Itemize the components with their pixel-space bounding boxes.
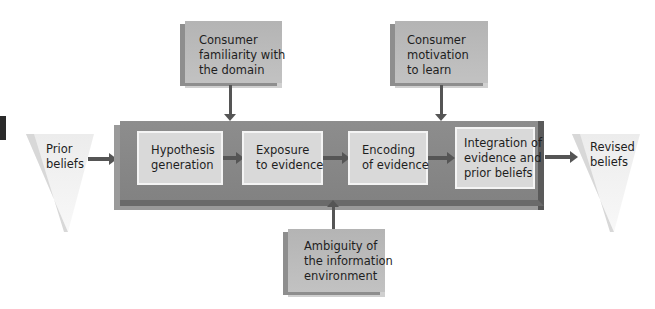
arrow-step-3-to-4 bbox=[428, 156, 448, 160]
arrow-process-to-revised bbox=[545, 155, 571, 159]
factor-line: Consumer bbox=[199, 33, 272, 48]
factor-line: motivation bbox=[407, 48, 478, 63]
revised-beliefs-label: Revised beliefs bbox=[590, 140, 635, 170]
prior-beliefs-triangle: Prior beliefs bbox=[24, 132, 96, 232]
arrow-familiarity-to-process bbox=[229, 85, 232, 115]
factor-ambiguity: Ambiguity of the information environment bbox=[288, 229, 385, 292]
step-line: evidence and bbox=[464, 151, 533, 166]
step-hypothesis-generation: Hypothesis generation bbox=[137, 131, 223, 185]
step-line: of evidence bbox=[362, 158, 426, 173]
factor-line: the information bbox=[304, 254, 375, 269]
step-line: generation bbox=[151, 158, 221, 173]
prior-beliefs-label: Prior beliefs bbox=[46, 142, 84, 172]
step-line: Integration of bbox=[464, 136, 533, 151]
step-line: Encoding bbox=[362, 143, 426, 158]
factor-line: environment bbox=[304, 269, 375, 284]
step-integration: Integration of evidence and prior belief… bbox=[455, 127, 535, 189]
step-line: Exposure bbox=[256, 143, 321, 158]
arrow-step-2-to-3 bbox=[323, 156, 343, 160]
step-line: to evidence bbox=[256, 158, 321, 173]
factor-line: the domain bbox=[199, 63, 272, 78]
factor-consumer-familiarity: Consumer familiarity with the domain bbox=[185, 21, 282, 83]
arrow-prior-to-process bbox=[88, 157, 110, 161]
label-line: Prior bbox=[46, 142, 84, 157]
step-exposure-to-evidence: Exposure to evidence bbox=[242, 131, 323, 185]
factor-consumer-motivation: Consumer motivation to learn bbox=[395, 21, 488, 83]
factor-line: to learn bbox=[407, 63, 478, 78]
label-line: Revised bbox=[590, 140, 635, 155]
factor-line: Ambiguity of bbox=[304, 239, 375, 254]
left-edge-bar bbox=[0, 116, 6, 140]
step-line: Hypothesis bbox=[151, 143, 221, 158]
factor-line: familiarity with bbox=[199, 48, 272, 63]
factor-line: Consumer bbox=[407, 33, 478, 48]
revised-beliefs-triangle: Revised beliefs bbox=[570, 132, 642, 232]
label-line: beliefs bbox=[46, 157, 84, 172]
step-line: prior beliefs bbox=[464, 166, 533, 181]
arrow-step-1-to-2 bbox=[223, 156, 237, 160]
step-encoding-of-evidence: Encoding of evidence bbox=[348, 131, 428, 185]
label-line: beliefs bbox=[590, 155, 635, 170]
arrow-motivation-to-process bbox=[440, 85, 443, 115]
